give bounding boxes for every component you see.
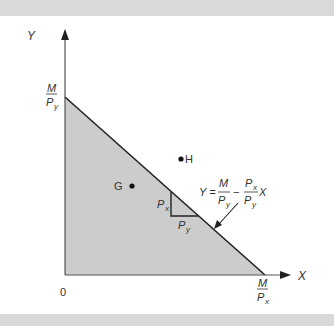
svg-text:P: P: [257, 291, 265, 303]
x-axis-arrow-icon: [280, 271, 291, 279]
svg-text:P: P: [245, 177, 253, 189]
svg-text:y: y: [53, 102, 59, 111]
svg-text:y: y: [225, 200, 231, 209]
point-h-label: H: [185, 153, 193, 165]
svg-text:x: x: [252, 183, 258, 192]
svg-text:P: P: [218, 194, 226, 206]
svg-text:M: M: [47, 82, 57, 94]
point-h-marker: [178, 156, 183, 161]
svg-text:P: P: [178, 219, 186, 231]
svg-text:P: P: [157, 198, 165, 210]
x-axis-label: X: [297, 269, 307, 283]
svg-text:Y =: Y =: [199, 186, 216, 198]
point-g-marker: [129, 183, 134, 188]
svg-text:P: P: [244, 194, 252, 206]
svg-text:P: P: [46, 96, 54, 108]
y-axis-label: Y: [27, 29, 36, 43]
svg-text:X: X: [258, 186, 267, 198]
budget-equation: Y = M P y − P x P y X: [199, 177, 267, 209]
origin-label: 0: [60, 286, 66, 298]
y-axis-arrow-icon: [61, 29, 69, 40]
y-intercept-label: M P y: [46, 82, 59, 111]
x-intercept-label: M P x: [257, 277, 270, 306]
svg-text:y: y: [251, 200, 257, 209]
point-g-label: G: [114, 180, 123, 192]
budget-diagram: Y X 0 M P y M P x G H P x P y Y = M P y …: [0, 0, 334, 326]
svg-text:M: M: [258, 277, 268, 289]
svg-text:M: M: [219, 177, 229, 189]
svg-text:−: −: [233, 186, 239, 198]
svg-text:x: x: [264, 297, 270, 306]
